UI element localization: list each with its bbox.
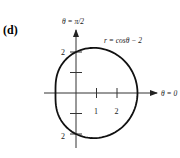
y-tick-label-bottom-2: 2	[61, 132, 65, 141]
polar-graph: (d) θ = π/2 r = cosθ − 2 θ = 0 1 2 2 2	[0, 0, 180, 158]
horizontal-axis-label: θ = 0	[161, 89, 177, 98]
x-tick-label-1: 1	[94, 107, 98, 116]
curve-label: r = cosθ − 2	[104, 36, 142, 45]
x-tick-label-2: 2	[115, 107, 119, 116]
vertical-axis-label: θ = π/2	[62, 17, 84, 26]
y-tick-label-top-2: 2	[61, 48, 65, 57]
panel-label: (d)	[3, 23, 18, 37]
